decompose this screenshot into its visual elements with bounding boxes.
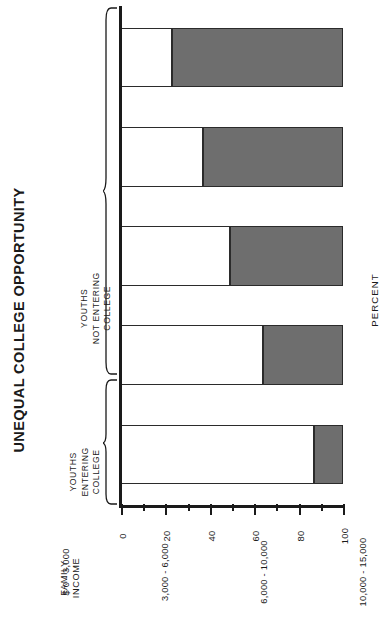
bar-segment-entering bbox=[121, 226, 230, 286]
percent-tick-major bbox=[299, 504, 301, 515]
bar-segment-not-entering bbox=[230, 226, 343, 286]
percent-tick-minor bbox=[321, 504, 323, 511]
bar-segment-not-entering bbox=[172, 28, 343, 88]
bar-row bbox=[121, 325, 343, 385]
bar-segment-entering bbox=[121, 127, 203, 187]
category-axis-title-line2: INCOME bbox=[70, 558, 82, 598]
percent-tick-label: 0 bbox=[117, 533, 128, 539]
percent-tick-major bbox=[343, 504, 345, 515]
bar-segment-entering bbox=[121, 425, 314, 485]
percent-tick-minor bbox=[232, 504, 234, 511]
bar-row bbox=[121, 28, 343, 88]
percent-tick-minor bbox=[276, 504, 278, 511]
brace-not-entering-icon bbox=[103, 6, 119, 376]
percent-tick-label: 20 bbox=[161, 530, 172, 541]
category-label: 10,000 - 15,000 bbox=[358, 538, 368, 607]
bar-segment-entering bbox=[121, 325, 263, 385]
percent-tick-major bbox=[210, 504, 212, 515]
bar-segment-entering bbox=[121, 28, 172, 88]
category-axis-line bbox=[119, 6, 122, 508]
percent-tick-label: 80 bbox=[294, 530, 305, 541]
legend-entering-line3: COLLEGE bbox=[91, 447, 103, 496]
percent-axis-title: PERCENT bbox=[369, 273, 380, 327]
percent-tick-minor bbox=[143, 504, 145, 511]
bar-segment-not-entering bbox=[263, 325, 343, 385]
chart-page: UNEQUAL COLLEGE OPPORTUNITY YOUTHS NOT E… bbox=[0, 0, 390, 640]
category-label: 3,000 - 6,000 bbox=[160, 543, 170, 601]
percent-tick-minor bbox=[188, 504, 190, 511]
bar-segment-not-entering bbox=[314, 425, 343, 485]
percent-tick-major bbox=[121, 504, 123, 515]
percent-tick-major bbox=[165, 504, 167, 515]
bar-row bbox=[121, 425, 343, 485]
brace-entering-icon bbox=[103, 378, 119, 506]
percent-tick-major bbox=[254, 504, 256, 515]
legend-not-entering-line1: YOUTHS bbox=[79, 272, 91, 344]
bar-segment-not-entering bbox=[203, 127, 343, 187]
percent-tick-label: 40 bbox=[205, 530, 216, 541]
legend-entering-line2: ENTERING bbox=[80, 447, 92, 496]
bar-row bbox=[121, 127, 343, 187]
category-axis-title-line1: FAMILY bbox=[59, 558, 71, 598]
category-label: 6,000 - 10,000 bbox=[259, 540, 269, 603]
legend-entering-line1: YOUTHS bbox=[68, 447, 80, 496]
legend-not-entering-line2: NOT ENTERING bbox=[91, 272, 103, 344]
percent-tick-label: 100 bbox=[339, 528, 350, 545]
category-axis-title: FAMILY INCOME bbox=[59, 558, 82, 598]
bar-row bbox=[121, 226, 343, 286]
plot-area bbox=[121, 8, 343, 504]
page-title: UNEQUAL COLLEGE OPPORTUNITY bbox=[2, 0, 36, 640]
